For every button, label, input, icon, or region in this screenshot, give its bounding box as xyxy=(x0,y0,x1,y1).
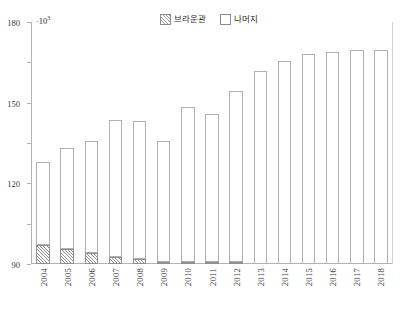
bar-segment-rest[interactable] xyxy=(133,121,147,259)
bar-segment-rest[interactable] xyxy=(254,71,268,264)
bar-segment-crt[interactable] xyxy=(205,262,219,264)
y-tick-label: 180 xyxy=(7,18,20,28)
bar-segment-crt[interactable] xyxy=(157,262,171,264)
bar-group[interactable] xyxy=(229,91,243,264)
bar-series-layer xyxy=(31,22,393,264)
x-tick-label: 2005 xyxy=(63,268,73,286)
bar-segment-rest[interactable] xyxy=(205,114,219,262)
bar-segment-crt[interactable] xyxy=(229,262,243,264)
bar-group[interactable] xyxy=(278,61,292,264)
x-tick-label: 2008 xyxy=(135,268,145,286)
x-tick-label: 2004 xyxy=(39,268,49,286)
x-tick-label: 2009 xyxy=(159,268,169,286)
bar-segment-crt[interactable] xyxy=(181,262,195,264)
bar-segment-rest[interactable] xyxy=(350,50,364,264)
axis-unit-exponent: 3 xyxy=(47,15,50,21)
bar-group[interactable] xyxy=(302,54,316,264)
x-tick-label: 2012 xyxy=(232,268,242,286)
bar-group[interactable] xyxy=(350,50,364,264)
x-tick-label: 2018 xyxy=(376,268,386,286)
bar-group[interactable] xyxy=(157,141,171,264)
stacked-bar-chart: ·103 브라운관 나머지 0306090120150180 200420052… xyxy=(0,0,417,316)
y-tick-label: 90 xyxy=(12,260,21,270)
bar-group[interactable] xyxy=(85,141,99,264)
x-tick-label: 2017 xyxy=(352,268,362,286)
bar-segment-rest[interactable] xyxy=(85,141,99,253)
y-tick-label: 120 xyxy=(7,179,20,189)
bar-group[interactable] xyxy=(205,114,219,264)
bar-segment-rest[interactable] xyxy=(60,148,74,248)
y-tick-label: 150 xyxy=(7,99,20,109)
x-tick-label: 2011 xyxy=(208,268,218,286)
bar-group[interactable] xyxy=(133,121,147,264)
bar-segment-rest[interactable] xyxy=(157,141,171,262)
bar-group[interactable] xyxy=(36,162,50,264)
bar-segment-rest[interactable] xyxy=(326,52,340,264)
bar-segment-crt[interactable] xyxy=(109,257,123,264)
x-tick-label: 2014 xyxy=(280,268,290,286)
bar-group[interactable] xyxy=(181,107,195,264)
bar-segment-rest[interactable] xyxy=(302,54,316,264)
bar-segment-rest[interactable] xyxy=(109,120,123,256)
x-tick-label: 2010 xyxy=(183,268,193,286)
bar-segment-crt[interactable] xyxy=(133,259,147,264)
bar-group[interactable] xyxy=(60,148,74,264)
x-tick-label: 2015 xyxy=(304,268,314,286)
bar-segment-rest[interactable] xyxy=(181,107,195,262)
bar-segment-crt[interactable] xyxy=(60,249,74,264)
bar-segment-crt[interactable] xyxy=(36,245,50,264)
x-axis-labels: 2004200520062007200820092010201120122013… xyxy=(31,266,393,314)
bar-segment-rest[interactable] xyxy=(229,91,243,262)
bar-group[interactable] xyxy=(254,71,268,264)
y-tick-mark: 0 xyxy=(27,264,31,265)
bar-segment-rest[interactable] xyxy=(36,162,50,245)
bar-group[interactable] xyxy=(109,120,123,264)
bar-group[interactable] xyxy=(374,50,388,264)
x-tick-label: 2006 xyxy=(87,268,97,286)
bar-group[interactable] xyxy=(326,52,340,264)
x-tick-label: 2016 xyxy=(328,268,338,286)
bar-segment-crt[interactable] xyxy=(85,253,99,264)
plot-area: 0306090120150180 xyxy=(31,22,393,264)
bar-segment-rest[interactable] xyxy=(374,50,388,264)
x-tick-label: 2007 xyxy=(111,268,121,286)
x-tick-label: 2013 xyxy=(256,268,266,286)
bar-segment-rest[interactable] xyxy=(278,61,292,264)
